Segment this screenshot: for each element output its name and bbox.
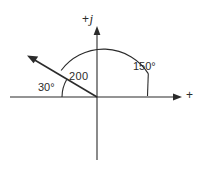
diagram-canvas: [0, 0, 203, 176]
angle-30-arc: [62, 80, 67, 98]
imaginary-axis-arrowhead: [94, 26, 101, 35]
angle-30-label: 30°: [38, 82, 55, 93]
magnitude-label: 200: [69, 71, 89, 82]
imaginary-axis-label: +j: [82, 12, 94, 25]
phasor-arrowhead: [27, 56, 38, 64]
imaginary-axis-j-symbol: j: [90, 11, 94, 26]
imaginary-axis-plus-sign: +: [82, 12, 90, 26]
angle-150-leader-line: [148, 74, 149, 96]
real-axis-label: +: [186, 89, 193, 101]
phasor-diagram: +j + 30° 150° 200: [0, 0, 203, 176]
angle-150-label: 150°: [133, 61, 156, 72]
real-axis-arrowhead: [173, 94, 182, 101]
